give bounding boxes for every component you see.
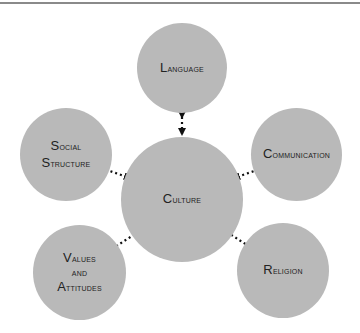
node-label: Religion <box>263 262 302 278</box>
node-label: Communication <box>263 146 330 162</box>
node-label: Social Structure <box>42 138 91 171</box>
node-communication: Communication <box>251 108 342 201</box>
node-language: Language <box>137 23 227 113</box>
node-label: Values and Attitudes <box>57 250 102 296</box>
node-values-and-attitudes: Values and Attitudes <box>33 225 126 320</box>
node-religion: Religion <box>237 223 329 318</box>
node-label: Culture <box>163 191 201 207</box>
node-label: Language <box>160 60 204 76</box>
node-social-structure: Social Structure <box>20 108 112 201</box>
node-culture: Culture <box>121 137 243 262</box>
